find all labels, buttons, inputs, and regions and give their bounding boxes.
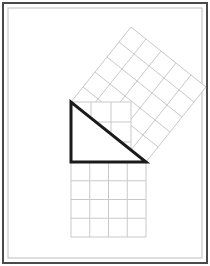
pythagorean-diagram [0,0,210,266]
figure-container [0,0,210,266]
square-on-horizontal-leg [71,162,146,237]
